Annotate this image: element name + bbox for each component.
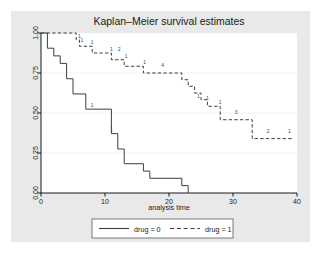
x-tick-label: 30	[229, 198, 237, 205]
censor-mark: 1	[110, 126, 113, 132]
censor-mark: 3	[235, 109, 238, 115]
kaplan-meier-chart: 0.000.250.500.751.00 010203040 111111211…	[0, 0, 321, 253]
censor-mark: 4	[161, 62, 164, 68]
y-axis-ticks: 0.000.250.500.751.00	[32, 26, 42, 200]
censor-mark: 1	[125, 53, 128, 59]
y-tick-label: 0.75	[32, 66, 39, 80]
y-tick-label: 1.00	[32, 26, 39, 40]
legend-label-drug0: drug = 0	[134, 225, 161, 234]
censor-mark: 1	[143, 59, 146, 65]
x-axis-label: analysis time	[148, 203, 190, 212]
x-tick-label: 40	[293, 198, 301, 205]
censor-mark: 1	[288, 128, 291, 134]
screenshot-root: 0.000.250.500.751.00 010203040 111111211…	[0, 0, 321, 253]
censor-mark: 1	[81, 37, 84, 43]
censor-mark: 1	[206, 95, 209, 101]
censor-mark: 1	[110, 46, 113, 52]
censor-mark: 2	[267, 128, 270, 134]
y-tick-label: 0.50	[32, 106, 39, 120]
y-tick-label: 0.00	[32, 186, 39, 200]
chart-title: Kaplan–Meier survival estimates	[93, 15, 244, 27]
x-tick-label: 10	[101, 198, 109, 205]
legend-label-drug1: drug = 1	[205, 225, 232, 234]
censor-mark: 1	[197, 93, 200, 99]
chart-legend[interactable]: drug = 0 drug = 1	[92, 219, 233, 238]
censor-mark: 1	[91, 102, 94, 108]
censor-mark: 1	[91, 39, 94, 45]
censor-mark: 2	[118, 46, 121, 52]
y-tick-label: 0.25	[32, 146, 39, 160]
censor-mark: 1	[219, 99, 222, 105]
x-tick-label: 0	[39, 198, 43, 205]
